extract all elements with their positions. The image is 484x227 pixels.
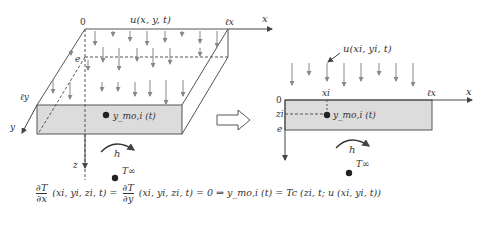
xi-label: xi <box>322 88 330 98</box>
dx-denominator: ∂x <box>36 194 47 204</box>
model-equation: y_mo,i (t) = Tc (zi, t; u (xi, yi, t)) <box>227 187 381 198</box>
lx-label-section: ℓx <box>427 88 436 98</box>
diagram-canvas: 0 u(x, y, t) ℓx x e ℓy y z y_mo,i (t) h … <box>0 0 484 227</box>
tinf-label-section: T∞ <box>356 159 370 169</box>
hollow-right-arrow-icon <box>217 110 250 130</box>
h-label: h <box>114 148 120 159</box>
plate-section: u(xi, yi, t) 0 xi zi e ℓx x y_mo,i (t) h… <box>275 43 472 176</box>
flux-arrows-2d <box>292 63 413 86</box>
x-axis-label: x <box>262 13 268 24</box>
z-axis-label: z <box>72 160 78 170</box>
y-axis-label: y <box>9 122 16 132</box>
ly-label: ℓy <box>20 92 30 102</box>
thickness-label: e <box>75 54 80 64</box>
dy-denominator: ∂y <box>123 194 134 204</box>
x-axis-label-section: x <box>466 86 472 97</box>
flux-arrows-3d <box>53 31 217 104</box>
field-label: u(x, y, t) <box>130 14 171 25</box>
tinf-label: T∞ <box>122 166 136 176</box>
h-label-section: h <box>349 144 355 155</box>
lx-label: ℓx <box>225 17 234 27</box>
plate-3d: 0 u(x, y, t) ℓx x e ℓy y z y_mo,i (t) h … <box>9 13 272 181</box>
field-label-section: u(xi, yi, t) <box>343 43 392 54</box>
measure-label: y_mo,i (t) <box>112 111 156 122</box>
boundary-equation: ∂T∂x (xi, yi, zi, t) = ∂T∂y (xi, yi, zi,… <box>34 183 381 204</box>
args-1: (xi, yi, zi, t) = <box>52 187 117 198</box>
args-2: (xi, yi, zi, t) = 0 ⇒ <box>139 187 224 198</box>
origin-label: 0 <box>80 17 86 27</box>
measure-label-section: y_mo,i (t) <box>332 110 376 121</box>
zi-label: zi <box>275 109 284 119</box>
origin-label-section: 0 <box>276 95 282 105</box>
e-label: e <box>277 124 282 134</box>
